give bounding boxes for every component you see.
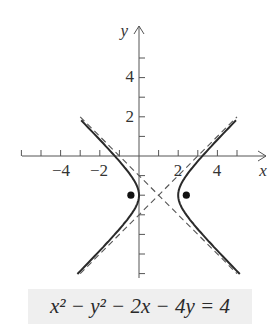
y-tick-label: 2 xyxy=(126,107,135,126)
hyperbola-graph: −4 −2 2 4 4 2 x y xyxy=(0,0,280,290)
x-axis-label: x xyxy=(258,161,267,180)
hyperbola-curve xyxy=(77,120,239,274)
asymptotes xyxy=(80,117,237,274)
axes xyxy=(21,26,266,278)
y-tick-label: 4 xyxy=(126,67,135,86)
equation-text: x² − y² − 2x − 4y = 4 xyxy=(50,294,230,319)
focus-point xyxy=(127,192,134,199)
focus-point xyxy=(183,192,190,199)
x-tick-label: 4 xyxy=(213,161,222,180)
x-tick-label: −4 xyxy=(52,161,71,180)
x-tick-label: −2 xyxy=(90,161,108,180)
x-tick-label: 2 xyxy=(174,161,183,180)
y-axis-label: y xyxy=(118,21,128,40)
equation-caption: x² − y² − 2x − 4y = 4 xyxy=(28,289,252,324)
